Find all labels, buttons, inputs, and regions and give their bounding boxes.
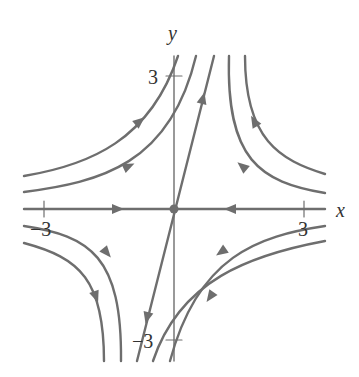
y-tick-label-pos3: 3 bbox=[148, 66, 158, 88]
arrow-up-icon bbox=[197, 91, 210, 105]
trajectory-lower-left-outer bbox=[24, 243, 104, 361]
arrow-down-left-icon bbox=[213, 244, 229, 259]
arrow-right-icon bbox=[112, 204, 124, 214]
saddle-point bbox=[170, 205, 179, 214]
arrow-left-icon bbox=[224, 204, 236, 214]
trajectory-lower-right-outer bbox=[153, 241, 325, 361]
x-axis-label: x bbox=[335, 199, 345, 221]
arrow-up-left-icon bbox=[234, 158, 250, 173]
trajectory-upper-right-outer bbox=[245, 56, 325, 174]
arrow-down-left-icon bbox=[202, 289, 217, 305]
phase-portrait: y x 3 −3 3 −3 bbox=[0, 0, 359, 377]
arrow-down-icon bbox=[99, 245, 114, 261]
x-tick-label-neg3: −3 bbox=[30, 218, 51, 240]
y-tick-label-neg3: −3 bbox=[132, 330, 153, 352]
x-tick-label-pos3: 3 bbox=[298, 218, 308, 240]
y-axis-label: y bbox=[166, 22, 177, 45]
